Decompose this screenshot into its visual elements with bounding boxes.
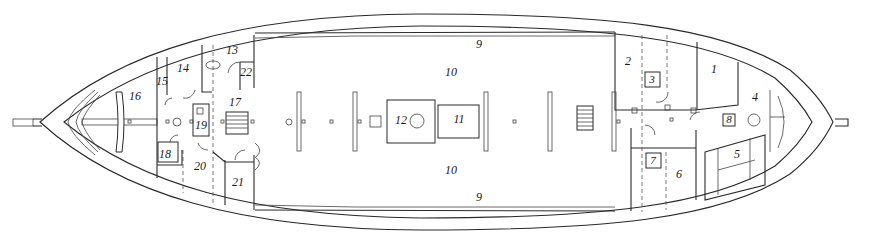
label-area-10-top: 10 [445, 65, 457, 79]
label-room-13: 13 [226, 43, 238, 57]
label-room-17: 17 [229, 95, 242, 109]
cabin-2-1-walls [615, 32, 738, 110]
label-room-8: 8 [726, 113, 732, 125]
ship-deck-plan: 1 2 3 4 5 6 7 8 9 9 10 10 11 12 13 14 15… [0, 0, 877, 241]
label-area-9-top: 9 [476, 37, 482, 51]
stern-sprit-end [835, 119, 848, 126]
bowsprit [13, 119, 42, 126]
bitt-4 [251, 120, 254, 123]
label-room-5: 5 [734, 147, 740, 161]
aft-cabins [615, 32, 785, 212]
bitt-7 [358, 120, 361, 123]
bitt-5 [302, 120, 305, 123]
spar-1 [297, 92, 301, 151]
spar-4 [548, 92, 552, 151]
bitt [128, 120, 131, 123]
bitt-aft-4 [670, 118, 673, 121]
doors-aft [645, 92, 700, 135]
stern-sprit [835, 119, 848, 126]
aft-dashes [642, 35, 667, 212]
bitt-aft-5 [617, 120, 620, 123]
main-deck [286, 92, 616, 151]
bitt-8 [513, 120, 516, 123]
label-area-9-bottom: 9 [476, 190, 482, 204]
label-room-3: 3 [648, 73, 655, 85]
bitt-1 [166, 120, 169, 123]
bitt-aft-2 [665, 105, 670, 110]
stairs-17 [226, 112, 248, 134]
label-room-19: 19 [195, 118, 207, 132]
windlass-bar [116, 92, 124, 152]
label-room-4: 4 [752, 90, 758, 104]
label-area-10-bottom: 10 [445, 163, 457, 177]
rudder-curve [778, 96, 784, 148]
label-hatch-11: 11 [453, 112, 464, 126]
label-room-21: 21 [232, 175, 244, 189]
door-22 [228, 62, 240, 73]
label-room-20: 20 [194, 159, 206, 173]
label-room-7: 7 [650, 154, 656, 166]
deck-boundary-top [255, 32, 615, 33]
small-hatch [370, 116, 381, 127]
bitt-3 [221, 120, 224, 123]
label-room-15: 15 [156, 74, 168, 88]
post-1 [286, 119, 292, 125]
doors-fore-top [165, 90, 195, 105]
spar-2 [353, 92, 357, 151]
double-door-main [255, 143, 260, 170]
deck-boundary-bottom [255, 210, 615, 211]
post-aft [748, 114, 760, 126]
label-room-16: 16 [129, 89, 141, 103]
bitt-6 [330, 120, 333, 123]
label-room-22: 22 [240, 65, 252, 79]
bowsprit-end [13, 119, 33, 126]
spar-3 [484, 92, 488, 151]
label-room-2: 2 [625, 54, 631, 68]
label-hatch-12: 12 [395, 113, 407, 127]
label-room-14: 14 [177, 61, 189, 75]
bunk-5 [705, 135, 765, 200]
doors-fore-bottom [170, 135, 245, 160]
bow-structure [68, 90, 157, 155]
fore-cabins [157, 35, 260, 210]
label-room-18: 18 [159, 147, 171, 161]
post-fore [173, 118, 181, 126]
label-room-6: 6 [676, 167, 682, 181]
rudder-post [770, 90, 785, 152]
label-room-1: 1 [711, 62, 717, 76]
